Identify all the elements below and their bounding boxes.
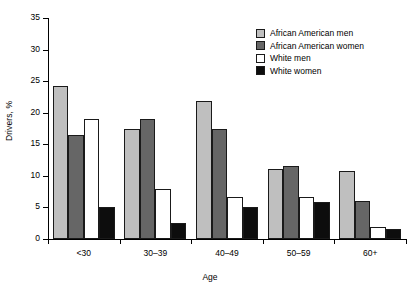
legend-label: African American women [270,41,364,51]
y-tick: 15 [43,144,48,145]
y-axis-label: Drivers, % [4,91,14,151]
y-tick: 30 [43,50,48,51]
bar [227,197,243,239]
legend-item: African American men [256,27,364,40]
bar [268,169,284,239]
bar-chart: Drivers, % Age 05101520253035 <3030–3940… [0,0,420,297]
y-tick: 10 [43,176,48,177]
bar [283,166,299,239]
bar [171,223,187,239]
x-tick-label: <30 [77,248,91,258]
x-axis-label: Age [0,272,420,282]
legend-label: White women [270,66,322,76]
y-axis-line [48,18,49,240]
legend-swatch-icon [256,41,265,50]
y-tick-label: 10 [31,170,40,180]
y-tick-label: 30 [31,44,40,54]
legend-item: African American women [256,40,364,53]
y-tick-label: 20 [31,107,40,117]
bar [68,135,84,239]
x-tick [120,239,121,244]
y-tick: 25 [43,81,48,82]
x-tick [191,239,192,244]
y-tick-label: 35 [31,12,40,22]
x-tick [263,239,264,244]
x-tick-label: 50–59 [287,248,311,258]
bar [155,189,171,240]
y-tick-label: 25 [31,75,40,85]
legend-swatch-icon [256,29,265,38]
bar [53,86,69,239]
legend: African American menAfrican American wom… [256,27,364,77]
x-axis-line [48,239,406,240]
bar [370,227,386,239]
legend-swatch-icon [256,54,265,63]
legend-label: African American men [270,28,353,38]
bar [355,201,371,239]
bar [299,197,315,239]
bar [212,129,228,240]
bar [84,119,100,239]
y-tick-label: 0 [35,233,40,243]
x-tick [48,239,49,244]
bar [243,207,259,239]
bar [339,171,355,239]
y-tick-label: 15 [31,138,40,148]
y-tick-label: 5 [35,201,40,211]
bar [99,207,115,239]
bar [196,101,212,239]
bar [124,129,140,240]
x-tick [406,239,407,244]
legend-label: White men [270,53,311,63]
y-tick: 20 [43,113,48,114]
bar [314,202,330,239]
x-tick-label: 60+ [363,248,377,258]
legend-swatch-icon [256,66,265,75]
x-tick-label: 30–39 [144,248,168,258]
x-tick [334,239,335,244]
legend-item: White women [256,65,364,78]
y-tick: 5 [43,207,48,208]
legend-item: White men [256,52,364,65]
x-tick-label: 40–49 [215,248,239,258]
bar [140,119,156,239]
bar [386,229,402,239]
y-tick: 35 [43,18,48,19]
